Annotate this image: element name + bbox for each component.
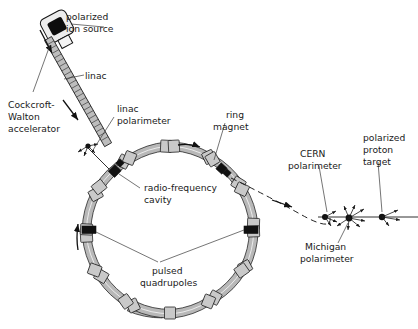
circulation-arrow-left [77,224,78,250]
label-pulsed-quadrupoles-line2: quadrupoles [140,277,197,288]
pulsed-quadrupole-block-right [244,226,258,234]
leader-proton-target [378,162,382,212]
label-proton-target-line2: proton [363,144,393,155]
polarized-proton-target [379,210,400,226]
label-ring-magnet-line2: magnet [213,121,249,132]
label-cern-polarimeter-line1: CERN [300,148,325,159]
label-cern-polarimeter-line2: polarimeter [288,160,342,171]
text-labels: polarized ion source linac Cockcroft- Wa… [8,11,405,288]
storage-ring [77,140,260,319]
pulsed-quadrupole-block-left [82,226,96,234]
extraction-direction-arrow [272,200,292,207]
accelerator-schematic-figure: polarized ion source linac Cockcroft- Wa… [0,0,418,329]
label-cockcroft-walton-line3: accelerator [8,123,60,134]
label-cockcroft-walton-line2: Walton [8,111,40,122]
beam-arrow-lower [63,100,78,120]
label-cockcroft-walton-line1: Cockcroft- [8,99,55,110]
label-rf-cavity-line1: radio-frequency [144,182,218,193]
label-linac-polarimeter-line2: polarimeter [117,115,171,126]
linac-polarimeter [78,143,98,156]
label-linac: linac [85,70,107,81]
label-polarized-ion-source-line2: ion source [66,23,114,34]
label-michigan-polarimeter-line2: polarimeter [300,253,354,264]
label-polarized-ion-source-line1: polarized [66,11,108,22]
leader-cockcroft-walton [33,45,50,92]
label-michigan-polarimeter-line1: Michigan [305,241,346,252]
pulsed-quadrupole-right [244,226,258,234]
leader-rf-cavity [119,174,140,188]
schematic-canvas: polarized ion source linac Cockcroft- Wa… [0,0,418,329]
label-proton-target-line3: target [363,156,391,167]
label-pulsed-quadrupoles-line1: pulsed [152,265,182,276]
label-rf-cavity-line2: cavity [144,194,172,205]
label-ring-magnet-line1: ring [226,109,244,120]
leader-michigan-polarimeter [338,223,348,243]
leader-cern-polarimeter [319,166,327,212]
leader-pulsed-quad-left [96,232,158,262]
michigan-polarimeter [337,205,365,230]
leader-pulsed-quad-right [160,230,244,262]
pulsed-quadrupole-left [82,226,96,234]
linac-polarimeter-scatter-tracks [78,144,98,156]
label-proton-target-line1: polarized [363,132,405,143]
label-linac-polarimeter-line1: linac [117,103,139,114]
